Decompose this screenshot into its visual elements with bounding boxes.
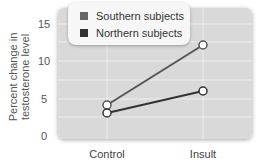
y-axis-label: Percent change in testosterone level (7, 33, 31, 122)
x-tick-labels: Control Insult (89, 148, 216, 160)
y-tick-labels: 15 10 5 0 (38, 18, 50, 142)
svg-text:0: 0 (41, 130, 47, 142)
legend: Southern subjects Northern subjects (68, 2, 190, 45)
svg-text:Percent change in: Percent change in (7, 33, 19, 122)
legend-swatch (80, 12, 88, 20)
svg-text:Control: Control (89, 148, 124, 160)
legend-swatch (80, 29, 88, 37)
svg-text:5: 5 (41, 93, 47, 105)
svg-text:testosterone level: testosterone level (19, 34, 31, 120)
data-point (199, 87, 207, 95)
data-point (103, 109, 111, 117)
svg-text:Insult: Insult (190, 148, 216, 160)
legend-item-southern: Southern subjects (80, 10, 184, 22)
svg-text:15: 15 (38, 18, 50, 30)
legend-item-northern: Northern subjects (80, 27, 182, 39)
legend-label: Southern subjects (96, 10, 184, 22)
legend-label: Northern subjects (96, 27, 182, 39)
data-point (103, 101, 111, 109)
data-point (199, 41, 207, 49)
svg-text:10: 10 (38, 55, 50, 67)
